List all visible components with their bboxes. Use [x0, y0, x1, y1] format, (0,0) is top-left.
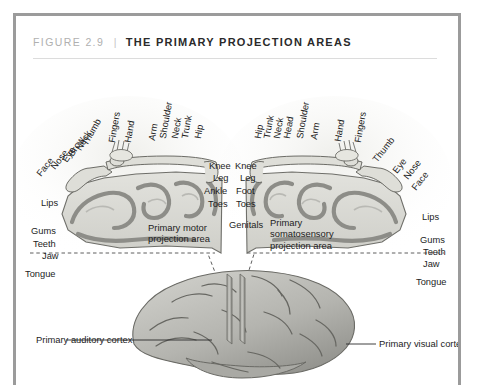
- label-right-foot: Foot: [236, 186, 255, 196]
- callout-primary-motor: Primary motor projection area: [148, 222, 210, 245]
- figure-separator: |: [109, 36, 122, 48]
- figure-card: FIGURE 2.9 | THE PRIMARY PROJECTION AREA…: [13, 13, 461, 385]
- label-left-tongue: Tongue: [25, 269, 56, 279]
- label-right-knee: Knee: [235, 161, 257, 171]
- figure-title: THE PRIMARY PROJECTION AREAS: [126, 36, 352, 48]
- somatosensory-strip: [240, 274, 245, 344]
- illustration-stage: Face Nose Eye Brow Neck Thumb Fingers Ha…: [16, 62, 458, 384]
- label-right-jaw: Jaw: [423, 259, 440, 269]
- label-right-teeth: Teeth: [423, 247, 446, 257]
- callout-primary-somatosensory: Primary somatosensory projection area: [270, 217, 334, 251]
- figure-number: FIGURE 2.9: [33, 36, 104, 48]
- title-divider: [33, 58, 437, 59]
- callout-motor-line2: projection area: [148, 233, 210, 244]
- label-right-leg: Leg: [240, 173, 256, 183]
- callout-soma-line3: projection area: [270, 240, 334, 251]
- label-right-genitals: Genitals: [229, 220, 263, 230]
- label-left-teeth: Teeth: [33, 239, 56, 249]
- label-left-ankle: Ankle: [204, 186, 227, 196]
- figure-header: FIGURE 2.9 | THE PRIMARY PROJECTION AREA…: [33, 32, 352, 50]
- label-left-toes: Toes: [208, 199, 228, 209]
- label-left-gums: Gums: [31, 226, 56, 236]
- label-left-knee: Knee: [209, 161, 231, 171]
- label-left-lips: Lips: [41, 198, 58, 208]
- callout-soma-line1: Primary: [270, 217, 334, 228]
- callout-motor-line1: Primary motor: [148, 222, 210, 233]
- callout-primary-visual-cortex: Primary visual cortex: [379, 338, 458, 349]
- label-left-leg: Leg: [213, 173, 229, 183]
- label-left-jaw: Jaw: [42, 251, 59, 261]
- label-right-tongue: Tongue: [416, 277, 447, 287]
- label-right-toes: Toes: [236, 199, 256, 209]
- motor-strip: [227, 274, 232, 344]
- callout-soma-line2: somatosensory: [270, 228, 334, 239]
- callout-primary-auditory-cortex: Primary auditory cortex: [36, 334, 132, 345]
- label-right-gums: Gums: [420, 235, 445, 245]
- label-right-lips: Lips: [422, 212, 439, 222]
- whole-brain: [133, 271, 355, 379]
